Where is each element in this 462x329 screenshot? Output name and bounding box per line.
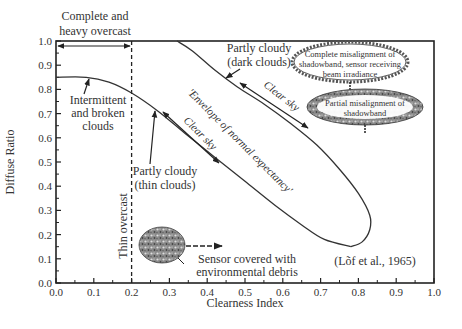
intermittent-label-line3: clouds xyxy=(82,119,114,133)
x-tick-label: 0.3 xyxy=(163,286,177,298)
y-tick-label: 0.7 xyxy=(38,108,52,120)
partly-dark-arrow xyxy=(226,69,240,78)
partly-thin-arrow xyxy=(150,111,155,164)
intermittent-arrow xyxy=(84,79,89,94)
x-tick-label: 0.2 xyxy=(125,286,139,298)
x-tick-label: 0.8 xyxy=(352,286,366,298)
x-tick-label: 1.0 xyxy=(427,286,441,298)
clear-sky-label-upper: Clear sky xyxy=(262,78,302,113)
diffuse-ratio-chart: 0.00.10.20.30.40.50.60.70.80.91.00.00.10… xyxy=(0,0,462,329)
y-tick-label: 0.9 xyxy=(38,59,52,71)
partial-misalignment-line2: shadowband xyxy=(344,108,387,118)
citation: (Lõf et al., 1965) xyxy=(334,254,416,268)
y-tick-label: 0.0 xyxy=(38,277,52,289)
debris-label-line1: Sensor covered with xyxy=(198,252,296,266)
complete-misalignment-line3: beam irradiance xyxy=(323,69,378,79)
y-tick-label: 0.8 xyxy=(38,83,52,95)
y-tick-label: 0.3 xyxy=(38,204,52,216)
x-axis-label: Clearness Index xyxy=(207,296,284,310)
y-tick-label: 0.6 xyxy=(38,132,52,144)
partial-misalignment-line1: Partial misalignment of xyxy=(325,98,405,108)
partly-dark-label-line2: (dark clouds) xyxy=(227,55,291,69)
partly-thin-label-line2: (thin clouds) xyxy=(135,178,196,192)
partly-thin-label-line1: Partly cloudy xyxy=(133,164,197,178)
y-tick-label: 0.1 xyxy=(38,253,52,265)
partly-dark-label-line1: Partly cloudy xyxy=(227,41,291,55)
overcast-label-line2: heavy overcast xyxy=(59,24,131,38)
debris-pointer xyxy=(178,258,184,264)
y-tick-label: 0.2 xyxy=(38,229,52,241)
x-tick-label: 0.9 xyxy=(389,286,403,298)
complete-misalignment-line1: Complete misalignment of xyxy=(305,49,396,59)
overcast-label-line1: Complete and xyxy=(62,9,129,23)
y-axis-label: Diffuse Ratio xyxy=(3,130,17,195)
x-tick-label: 0.7 xyxy=(314,286,328,298)
intermittent-label-line1: Intermittent xyxy=(70,93,127,107)
thin-overcast-label: Thin overcast xyxy=(116,193,130,259)
y-tick-label: 1.0 xyxy=(38,35,52,47)
complete-misalignment-line2: shadowband, sensor receiving xyxy=(299,59,402,69)
y-tick-label: 0.4 xyxy=(38,180,52,192)
intermittent-label-line2: and broken xyxy=(71,106,125,120)
debris-label-line2: environmental debris xyxy=(196,265,298,279)
debris-blob xyxy=(139,227,185,263)
y-tick-label: 0.5 xyxy=(38,156,52,168)
x-tick-label: 0.1 xyxy=(87,286,101,298)
